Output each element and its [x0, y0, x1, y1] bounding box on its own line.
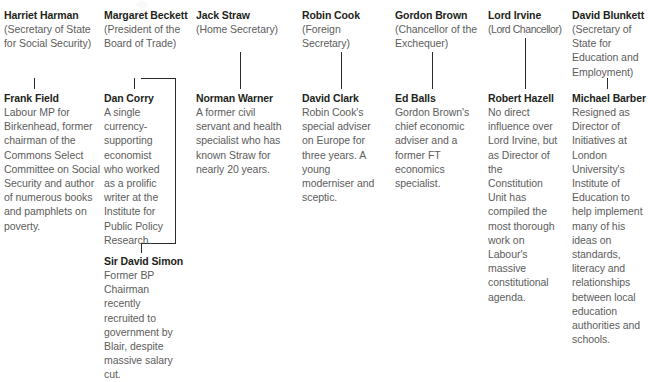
adviser-node-balls: Ed Balls Gordon Brown's chief economic a… — [395, 91, 477, 190]
chart-column-cook: Robin Cook (Foreign Secretary) David Cla… — [302, 0, 387, 367]
minister-role: (Secretary of State for Social Security) — [4, 22, 104, 50]
connector-beckett-branch-right — [175, 78, 176, 244]
adviser-name: Ed Balls — [395, 91, 477, 105]
adviser-description: Labour MP for Birkenhead, former chairma… — [4, 105, 104, 233]
adviser-description: A single currency-supporting economist w… — [104, 105, 172, 247]
adviser-name: Michael Barber — [572, 91, 648, 105]
minister-role: (Secretary of State for Education and Em… — [572, 22, 648, 79]
minister-role: (Home Secretary) — [196, 22, 294, 36]
connector-blunkett-to-barber — [607, 78, 608, 89]
minister-role: (Chancellor of the Exchequer) — [395, 22, 483, 50]
adviser-node-warner: Norman Warner A former civil servant and… — [196, 91, 288, 176]
adviser-description: Former BP Chairman recently recruited to… — [104, 268, 182, 382]
adviser-description: Gordon Brown's chief economic adviser an… — [395, 105, 477, 190]
chart-column-beckett: Margaret Beckett (President of the Board… — [104, 0, 196, 367]
adviser-node-corry: Dan Corry A single currency-supporting e… — [104, 91, 172, 247]
minister-role: (Foreign Secretary) — [302, 22, 387, 50]
connector-brown-to-balls — [432, 52, 433, 89]
minister-name: Robin Cook — [302, 8, 387, 22]
connector-beckett-to-corry — [134, 78, 135, 89]
adviser-node-clark: David Clark Robin Cook's special adviser… — [302, 91, 382, 204]
adviser-name: Frank Field — [4, 91, 104, 105]
minister-node-harman: Harriet Harman (Secretary of State for S… — [4, 8, 104, 50]
connector-straw-to-warner — [240, 52, 241, 89]
adviser-node-barber: Michael Barber Resigned as Director of I… — [572, 91, 648, 346]
connector-beckett-branch-top — [141, 78, 176, 79]
connector-irvine-to-hazell — [525, 38, 526, 89]
chart-column-brown: Gordon Brown (Chancellor of the Excheque… — [395, 0, 483, 367]
minister-name: Lord Irvine — [488, 8, 570, 22]
minister-role: (Lord Chancellor) — [488, 22, 570, 36]
minister-node-cook: Robin Cook (Foreign Secretary) — [302, 8, 387, 50]
chart-column-straw: Jack Straw (Home Secretary) Norman Warne… — [196, 0, 294, 367]
minister-role: (President of the Board of Trade) — [104, 22, 182, 50]
adviser-name: David Clark — [302, 91, 382, 105]
adviser-node-field: Frank Field Labour MP for Birkenhead, fo… — [4, 91, 104, 233]
chart-column-harman: Harriet Harman (Secretary of State for S… — [4, 0, 104, 367]
adviser-name: Sir David Simon — [104, 254, 196, 268]
connector-cook-to-clark — [341, 52, 342, 89]
chart-column-irvine: Lord Irvine (Lord Chancellor) Robert Haz… — [488, 0, 570, 367]
adviser-description: Resigned as Director of Initiatives at L… — [572, 105, 648, 346]
adviser-description: Robin Cook's special adviser on Europe f… — [302, 105, 382, 204]
scan-artifact — [136, 1, 148, 8]
minister-name: Gordon Brown — [395, 8, 483, 22]
adviser-name: Robert Hazell — [488, 91, 560, 105]
minister-name: Harriet Harman — [4, 8, 104, 22]
adviser-description: No direct influence over Lord Irvine, bu… — [488, 105, 560, 304]
adviser-node-hazell: Robert Hazell No direct influence over L… — [488, 91, 560, 304]
connector-harman-to-field — [34, 78, 35, 89]
minister-node-irvine: Lord Irvine (Lord Chancellor) — [488, 8, 570, 36]
adviser-description: A former civil servant and health specia… — [196, 105, 288, 176]
adviser-name: Dan Corry — [104, 91, 172, 105]
minister-node-brown: Gordon Brown (Chancellor of the Excheque… — [395, 8, 483, 50]
minister-name: David Blunkett — [572, 8, 648, 22]
chart-column-blunkett: David Blunkett (Secretary of State for E… — [572, 0, 648, 367]
adviser-name: Norman Warner — [196, 91, 288, 105]
minister-node-beckett: Margaret Beckett (President of the Board… — [104, 8, 182, 50]
minister-name: Jack Straw — [196, 8, 294, 22]
adviser-node-simon: Sir David Simon Former BP Chairman recen… — [104, 254, 196, 382]
minister-name: Margaret Beckett — [104, 8, 182, 22]
minister-node-blunkett: David Blunkett (Secretary of State for E… — [572, 8, 648, 79]
minister-node-straw: Jack Straw (Home Secretary) — [196, 8, 294, 36]
